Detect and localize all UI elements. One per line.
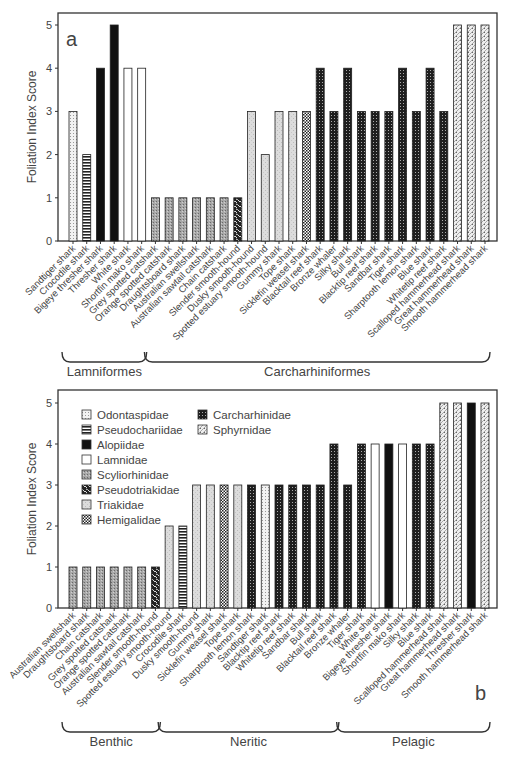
panel-b: 012345Foliation Index ScorebAustralian s…	[7, 390, 497, 749]
legend-label: Pseudotriakidae	[97, 484, 179, 496]
bar	[385, 111, 393, 241]
bar	[344, 485, 352, 608]
legend-swatch	[82, 425, 91, 434]
bar	[248, 111, 256, 241]
bar	[124, 567, 132, 608]
group-label: Neritic	[230, 734, 267, 749]
bar	[110, 25, 118, 241]
legend-label: Hemigalidae	[97, 514, 161, 526]
panel-label: a	[66, 28, 78, 50]
y-tick-label: 3	[46, 105, 52, 117]
bar	[179, 526, 187, 608]
y-axis-title: Foliation Index Score	[25, 70, 39, 183]
bar	[454, 25, 462, 241]
legend-swatch	[82, 470, 91, 479]
bar	[96, 68, 104, 241]
bar	[302, 485, 310, 608]
bar	[220, 485, 228, 608]
bar	[96, 567, 104, 608]
bar	[275, 485, 283, 608]
bar	[399, 68, 407, 241]
bar	[275, 111, 283, 241]
bar	[467, 25, 475, 241]
bar	[399, 444, 407, 608]
bar	[467, 403, 475, 608]
group-bracket	[337, 722, 490, 732]
bar	[440, 403, 448, 608]
y-tick-label: 0	[46, 602, 52, 614]
bar	[330, 444, 338, 608]
bar	[206, 485, 214, 608]
panel-label: b	[475, 682, 486, 704]
legend-swatch	[198, 425, 207, 434]
legend-label: Odontaspidae	[97, 409, 169, 421]
legend-label: Sphyrnidae	[213, 424, 271, 436]
legend-swatch	[82, 485, 91, 494]
bar	[302, 111, 310, 241]
group-bracket	[158, 722, 339, 732]
bar	[248, 485, 256, 608]
legend-label: Alopiidae	[97, 439, 144, 451]
bar	[138, 68, 146, 241]
bar	[261, 485, 269, 608]
bar	[289, 111, 297, 241]
bar	[165, 526, 173, 608]
bar	[344, 68, 352, 241]
y-tick-label: 4	[46, 62, 52, 74]
legend-swatch	[82, 455, 91, 464]
bar	[357, 444, 365, 608]
bar	[165, 198, 173, 241]
y-tick-label: 5	[46, 19, 52, 31]
group-bracket	[62, 352, 147, 362]
bar	[330, 111, 338, 241]
y-tick-label: 2	[46, 149, 52, 161]
legend-swatch	[82, 500, 91, 509]
bar	[261, 155, 269, 241]
bar	[357, 111, 365, 241]
bar	[83, 567, 91, 608]
bar	[440, 111, 448, 241]
legend-label: Lamnidae	[97, 454, 148, 466]
group-label: Benthic	[90, 734, 134, 749]
bar	[426, 444, 434, 608]
bar	[206, 198, 214, 241]
y-axis-title: Foliation Index Score	[25, 442, 39, 555]
bar	[83, 155, 91, 241]
group-label: Pelagic	[392, 734, 435, 749]
y-tick-label: 2	[46, 520, 52, 532]
y-tick-label: 4	[46, 438, 52, 450]
legend-swatch	[82, 410, 91, 419]
group-bracket	[144, 352, 490, 362]
group-bracket	[62, 722, 160, 732]
bar	[412, 111, 420, 241]
bar	[481, 403, 489, 608]
bar	[193, 485, 201, 608]
bar	[316, 485, 324, 608]
bar	[220, 198, 228, 241]
legend-label: Triakidae	[97, 499, 144, 511]
bar	[234, 485, 242, 608]
bar	[69, 567, 77, 608]
bar	[316, 68, 324, 241]
legend-label: Scyliorhinidae	[97, 469, 169, 481]
legend-swatch	[82, 515, 91, 524]
y-tick-label: 3	[46, 479, 52, 491]
bar	[234, 198, 242, 241]
bar	[69, 111, 77, 241]
bar	[179, 198, 187, 241]
group-label: Lamniformes	[67, 364, 143, 379]
bar	[193, 198, 201, 241]
group-label: Carcharhiniformes	[264, 364, 371, 379]
bar	[426, 68, 434, 241]
bar	[138, 567, 146, 608]
bar	[151, 567, 159, 608]
bar	[151, 198, 159, 241]
bar	[454, 403, 462, 608]
bar	[289, 485, 297, 608]
panel-a: 012345Foliation Index ScoreaSandtiger sh…	[23, 13, 497, 379]
y-tick-label: 1	[46, 561, 52, 573]
legend-label: Carcharhinidae	[213, 409, 291, 421]
bar	[385, 444, 393, 608]
bar	[371, 444, 379, 608]
y-tick-label: 0	[46, 235, 52, 247]
